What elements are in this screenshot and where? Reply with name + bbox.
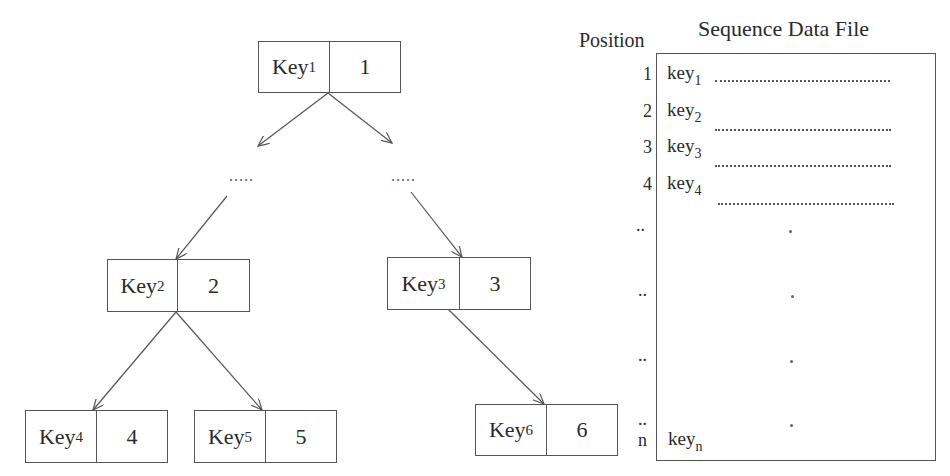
sequence-file-title: Sequence Data File bbox=[698, 16, 869, 42]
position-number: 4 bbox=[632, 174, 652, 195]
edge-1-right bbox=[328, 93, 392, 143]
position-ellipsis: .. bbox=[625, 215, 645, 236]
vertical-ellipsis-dot bbox=[789, 230, 792, 233]
ellipsis-right: ..... bbox=[391, 168, 416, 184]
vertical-ellipsis-dot bbox=[791, 295, 794, 298]
position-ellipsis: .. bbox=[627, 409, 647, 430]
position-number: n bbox=[627, 430, 647, 451]
position-label: Position bbox=[579, 29, 645, 52]
node-value: 5 bbox=[266, 411, 336, 462]
ellipsis-left: ..... bbox=[229, 168, 254, 184]
position-ellipsis: .. bbox=[627, 280, 647, 301]
vertical-ellipsis-dot bbox=[790, 360, 793, 363]
node-value: 4 bbox=[97, 411, 167, 462]
vertical-ellipsis-dot bbox=[790, 424, 793, 427]
node-key: Key2 bbox=[108, 260, 178, 311]
record-key: key2 bbox=[667, 99, 701, 121]
node-value: 3 bbox=[460, 258, 530, 309]
record-data-fill bbox=[715, 80, 890, 82]
edge-2-4 bbox=[93, 312, 176, 410]
tree-node-2: Key2 2 bbox=[107, 259, 250, 312]
record-data-fill bbox=[715, 129, 891, 131]
position-number: 3 bbox=[632, 137, 652, 158]
edge-right-3 bbox=[411, 192, 462, 257]
node-key: Key1 bbox=[259, 42, 330, 92]
edge-2-5 bbox=[176, 312, 262, 410]
edge-3-6 bbox=[448, 309, 544, 404]
edge-1-left bbox=[258, 93, 328, 146]
record-data-fill bbox=[715, 165, 891, 167]
record-key: keyn bbox=[668, 428, 702, 450]
node-key: Key6 bbox=[476, 405, 547, 455]
tree-node-6: Key6 6 bbox=[475, 404, 618, 456]
tree-node-1: Key1 1 bbox=[258, 41, 401, 93]
node-value: 2 bbox=[178, 260, 249, 311]
position-number: 1 bbox=[632, 64, 652, 85]
node-value: 6 bbox=[547, 405, 617, 455]
position-ellipsis: .. bbox=[627, 345, 647, 366]
position-number: 2 bbox=[632, 101, 652, 122]
node-value: 1 bbox=[330, 42, 400, 92]
record-data-fill bbox=[718, 203, 894, 205]
node-key: Key4 bbox=[26, 411, 97, 462]
node-key: Key5 bbox=[195, 411, 266, 462]
tree-node-4: Key4 4 bbox=[25, 410, 168, 463]
record-key: key1 bbox=[667, 62, 701, 84]
node-key: Key3 bbox=[388, 258, 460, 309]
edge-left-2 bbox=[176, 196, 227, 259]
tree-node-5: Key5 5 bbox=[194, 410, 337, 463]
record-key: key3 bbox=[667, 135, 701, 157]
record-key: key4 bbox=[667, 172, 701, 194]
tree-node-3: Key3 3 bbox=[387, 257, 531, 310]
